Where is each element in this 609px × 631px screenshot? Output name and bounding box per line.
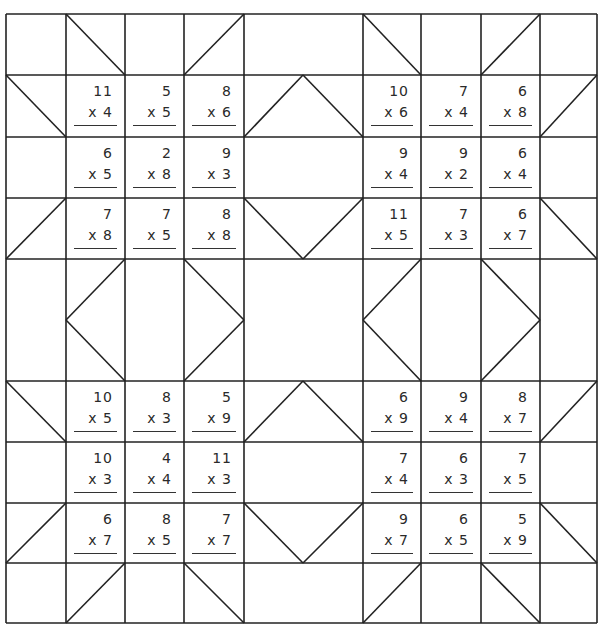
diagonal-line: [540, 198, 597, 259]
multiplication-problem: 7x 8: [68, 200, 121, 252]
multiplier: x 4: [503, 166, 528, 182]
answer-line[interactable]: [429, 553, 473, 554]
multiplication-problem: 8x 6: [186, 77, 240, 129]
diagonal-line: [540, 503, 597, 563]
multiplication-problem: 6x 8: [483, 77, 536, 129]
multiplication-problem: 10x 5: [68, 383, 121, 435]
diagonal-line: [363, 14, 421, 75]
multiplication-problem: 10x 6: [365, 77, 417, 129]
multiplicand: 7: [518, 450, 528, 466]
diagonal-line: [6, 503, 66, 563]
multiplication-problem: 7x 5: [483, 444, 536, 496]
diagonal-line: [303, 503, 363, 563]
answer-line[interactable]: [489, 492, 532, 493]
answer-line[interactable]: [371, 187, 413, 188]
diagonal-line: [481, 563, 540, 623]
multiplier: x 4: [384, 471, 409, 487]
multiplication-problem: 5x 9: [483, 505, 536, 557]
answer-line[interactable]: [133, 187, 176, 188]
multiplication-problem: 6x 7: [68, 505, 121, 557]
multiplier: x 7: [503, 410, 528, 426]
answer-line[interactable]: [133, 553, 176, 554]
answer-line[interactable]: [371, 125, 413, 126]
diagonal-line: [184, 563, 244, 623]
multiplicand: 7: [103, 206, 113, 222]
answer-line[interactable]: [489, 125, 532, 126]
diagonal-line: [481, 14, 540, 75]
multiplier: x 4: [444, 410, 469, 426]
multiplier: x 3: [88, 471, 113, 487]
answer-line[interactable]: [74, 492, 117, 493]
multiplicand: 11: [389, 206, 409, 222]
multiplication-problem: 6x 3: [423, 444, 477, 496]
answer-line[interactable]: [74, 248, 117, 249]
multiplication-problem: 11x 5: [365, 200, 417, 252]
answer-line[interactable]: [74, 187, 117, 188]
multiplier: x 6: [207, 104, 232, 120]
answer-line[interactable]: [429, 431, 473, 432]
multiplicand: 8: [222, 206, 232, 222]
answer-line[interactable]: [489, 248, 532, 249]
multiplication-problem: 6x 9: [365, 383, 417, 435]
multiplicand: 6: [518, 145, 528, 161]
diagonal-line: [66, 259, 125, 320]
answer-line[interactable]: [74, 553, 117, 554]
answer-line[interactable]: [429, 248, 473, 249]
multiplication-problem: 11x 3: [186, 444, 240, 496]
multiplication-problem: 5x 9: [186, 383, 240, 435]
answer-line[interactable]: [74, 125, 117, 126]
multiplier: x 8: [207, 227, 232, 243]
multiplication-problem: 9x 7: [365, 505, 417, 557]
diagonal-line: [244, 75, 303, 137]
diagonal-line: [303, 75, 363, 137]
answer-line[interactable]: [133, 431, 176, 432]
diagonal-line: [244, 381, 303, 442]
answer-line[interactable]: [371, 492, 413, 493]
multiplier: x 6: [384, 104, 409, 120]
answer-line[interactable]: [133, 248, 176, 249]
diagonal-line: [244, 198, 303, 259]
answer-line[interactable]: [371, 431, 413, 432]
answer-line[interactable]: [133, 492, 176, 493]
multiplicand: 5: [518, 511, 528, 527]
answer-line[interactable]: [192, 187, 236, 188]
multiplicand: 11: [212, 450, 232, 466]
answer-line[interactable]: [192, 431, 236, 432]
multiplication-problem: 9x 4: [423, 383, 477, 435]
answer-line[interactable]: [489, 553, 532, 554]
multiplicand: 9: [399, 511, 409, 527]
multiplier: x 5: [88, 410, 113, 426]
diagonal-line: [6, 198, 66, 259]
answer-line[interactable]: [192, 492, 236, 493]
multiplier: x 9: [503, 532, 528, 548]
answer-line[interactable]: [192, 553, 236, 554]
answer-line[interactable]: [371, 553, 413, 554]
diagonal-line: [184, 259, 244, 320]
answer-line[interactable]: [489, 431, 532, 432]
multiplication-problem: 6x 7: [483, 200, 536, 252]
answer-line[interactable]: [489, 187, 532, 188]
multiplicand: 6: [103, 511, 113, 527]
diagonal-line: [363, 259, 421, 320]
answer-line[interactable]: [429, 125, 473, 126]
diagonal-line: [540, 75, 597, 137]
multiplicand: 8: [162, 389, 172, 405]
multiplier: x 9: [384, 410, 409, 426]
multiplier: x 4: [88, 104, 113, 120]
answer-line[interactable]: [192, 125, 236, 126]
diagonal-line: [363, 320, 421, 381]
multiplicand: 8: [162, 511, 172, 527]
answer-line[interactable]: [74, 431, 117, 432]
multiplicand: 7: [162, 206, 172, 222]
answer-line[interactable]: [192, 248, 236, 249]
multiplicand: 6: [459, 450, 469, 466]
multiplicand: 7: [399, 450, 409, 466]
multiplier: x 5: [147, 104, 172, 120]
answer-line[interactable]: [429, 187, 473, 188]
multiplicand: 6: [518, 206, 528, 222]
answer-line[interactable]: [429, 492, 473, 493]
multiplier: x 4: [384, 166, 409, 182]
multiplier: x 8: [503, 104, 528, 120]
answer-line[interactable]: [133, 125, 176, 126]
answer-line[interactable]: [371, 248, 413, 249]
